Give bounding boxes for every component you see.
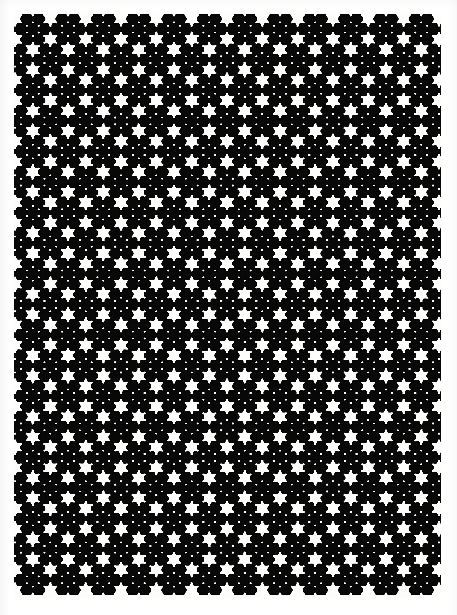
- snowflake-fractal-image: [0, 0, 457, 615]
- fractal-plate: [0, 0, 457, 615]
